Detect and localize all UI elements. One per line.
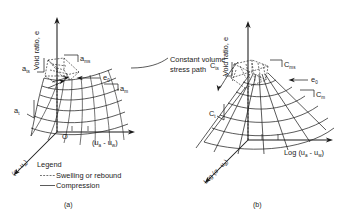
panel-a-apex-pointers bbox=[48, 76, 70, 88]
panel-b-depth-axis-label: Log (σ - ua) bbox=[202, 157, 230, 185]
annotation-line-2: stress path bbox=[170, 65, 206, 74]
panel-b-e0-pointer bbox=[289, 78, 309, 83]
panel-a-e0-pointer bbox=[77, 76, 101, 81]
panel-a-depth-axis-label: (σ - ua) bbox=[10, 158, 30, 178]
panel-a-label-a-ts: ats bbox=[22, 64, 30, 74]
panel-b-label-C-ms: Cms bbox=[284, 60, 296, 70]
panel-a-caption: (a) bbox=[64, 201, 73, 209]
panel-b-horizontal-axis bbox=[248, 137, 333, 142]
annotation-line-1: Constant volume bbox=[170, 55, 225, 64]
panel-b-label-C-t: Ct bbox=[209, 109, 216, 119]
panel-b: Void ratio, e Log (ua - uw) Log (σ - ua)… bbox=[196, 21, 334, 209]
panel-a-label-a-t: at bbox=[14, 106, 20, 116]
panel-b-contour-arcs bbox=[204, 80, 334, 149]
panel-b-label-e0: e0 bbox=[311, 75, 318, 85]
panel-a-legend: Legend Swelling or rebound Compression bbox=[37, 160, 121, 190]
legend-title: Legend bbox=[37, 160, 62, 169]
legend-item-compression: Compression bbox=[56, 181, 100, 190]
panel-b-caption: (b) bbox=[253, 201, 262, 209]
panel-a-horizontal-axis-label: (ua - uw) bbox=[92, 138, 118, 148]
panel-a-vertical-axis-label: Void ratio, e bbox=[32, 31, 41, 70]
panel-b-slope-markers bbox=[217, 60, 314, 120]
panel-b-label-C-m: Cm bbox=[316, 90, 325, 100]
panel-b-vertical-axis-label: Void ratio, e bbox=[221, 37, 230, 76]
legend-item-swelling: Swelling or rebound bbox=[56, 171, 121, 180]
panel-a-label-e0: e0 bbox=[103, 73, 110, 83]
soil-mechanics-figure: Void ratio, e O (ua - uw) (σ - ua) ams a… bbox=[0, 0, 341, 216]
panel-a-origin-label: O bbox=[62, 132, 68, 141]
panel-a: Void ratio, e O (ua - uw) (σ - ua) ams a… bbox=[10, 17, 135, 209]
panel-a-base-guides bbox=[57, 84, 88, 132]
figure-canvas: Void ratio, e O (ua - uw) (σ - ua) ams a… bbox=[0, 0, 341, 216]
panel-b-horizontal-axis-label: Log (ua - uw) bbox=[284, 148, 324, 158]
panel-a-label-a-ms: ams bbox=[80, 54, 91, 64]
panel-a-label-a-m: am bbox=[120, 84, 128, 94]
panel-b-base-guides bbox=[248, 86, 278, 140]
